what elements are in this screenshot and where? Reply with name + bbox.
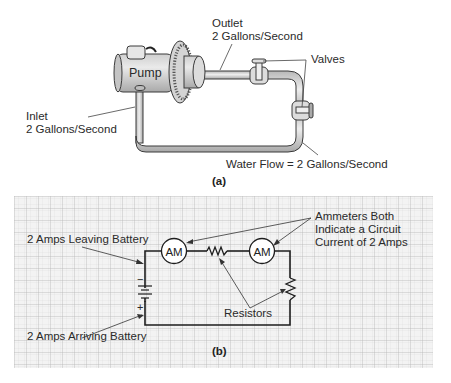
return-pipe [136,86,303,152]
figure-b-caption: (b) [212,345,227,357]
battery-positive: + [137,301,143,313]
figure-a-hydraulic: Pump Outlet 2 Gallons/Second Valves Inle… [26,17,388,187]
valve-top [250,59,268,84]
figure-a-caption: (a) [212,175,226,187]
ammeters-note-line3: Current of 2 Amps [315,236,408,248]
battery-negative: − [137,273,143,285]
ammeter-2: AM [250,239,275,264]
leaving-battery-label: 2 Amps Leaving Battery [27,233,149,245]
ammeter-1-label: AM [165,246,182,258]
ammeter-2-label: AM [253,246,270,258]
resistors-label: Resistors [224,307,272,319]
ammeters-note-line2: Indicate a Circuit [315,223,401,235]
pump: Pump [114,41,205,103]
inlet-rate-label: 2 Gallons/Second [26,123,117,135]
arriving-battery-label: 2 Amps Arriving Battery [27,330,147,342]
water-flow-label: Water Flow = 2 Gallons/Second [226,158,388,170]
ammeters-note-line1: Ammeters Both [315,210,394,222]
valves-label: Valves [311,53,345,65]
ammeter-1: AM [162,239,187,264]
inlet-label: Inlet [26,110,49,122]
outlet-label: Outlet [212,17,243,29]
outlet-rate-label: 2 Gallons/Second [212,30,303,42]
pump-label: Pump [129,66,162,80]
figure-b-electrical: − + AM AM 2 Amp [14,196,433,368]
diagram-canvas: Pump Outlet 2 Gallons/Second Valves Inle… [0,0,451,383]
